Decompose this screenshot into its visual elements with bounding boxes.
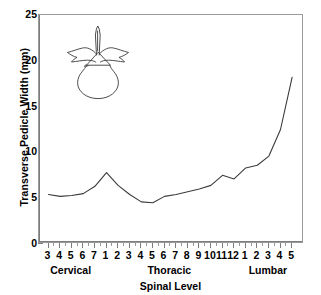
x-minor-tick bbox=[262, 243, 263, 246]
x-minor-tick bbox=[65, 243, 66, 246]
x-tick-mark-L4 bbox=[280, 243, 281, 248]
x-minor-tick bbox=[227, 243, 228, 246]
region-label-thoracic: Thoracic bbox=[114, 265, 224, 276]
x-tick-mark-T12 bbox=[233, 243, 234, 248]
plot-area bbox=[38, 14, 303, 243]
x-minor-tick bbox=[169, 243, 170, 246]
y-tick-label-20: 20 bbox=[11, 55, 37, 66]
x-minor-tick bbox=[100, 243, 101, 246]
x-tick-mark-C7 bbox=[94, 243, 95, 248]
y-tick-label-5: 5 bbox=[11, 192, 37, 203]
chart-figure: Transverse Pedicle Width (mm) 25 20 15 1… bbox=[0, 0, 321, 295]
x-tick-label-L5: 5 bbox=[281, 250, 301, 261]
x-minor-tick bbox=[181, 243, 182, 246]
x-minor-tick bbox=[274, 243, 275, 246]
x-minor-tick bbox=[77, 243, 78, 246]
x-tick-mark-T2 bbox=[117, 243, 118, 248]
x-tick-mark-T10 bbox=[210, 243, 211, 248]
x-axis-title: Spinal Level bbox=[38, 281, 303, 292]
x-minor-tick bbox=[53, 243, 54, 246]
y-tick-label-10: 10 bbox=[11, 146, 37, 157]
x-tick-mark-T3 bbox=[129, 243, 130, 248]
x-tick-mark-T1 bbox=[106, 243, 107, 248]
x-tick-mark-T7 bbox=[175, 243, 176, 248]
x-minor-tick bbox=[158, 243, 159, 246]
x-minor-tick bbox=[285, 243, 286, 246]
y-tick-label-0: 0 bbox=[11, 238, 37, 249]
x-tick-mark-C3 bbox=[48, 243, 49, 248]
y-axis-title: Transverse Pedicle Width (mm) bbox=[19, 7, 30, 247]
vertebra-illustration-icon bbox=[57, 21, 139, 103]
x-minor-tick bbox=[204, 243, 205, 246]
y-axis-line bbox=[39, 15, 40, 242]
x-tick-mark-T6 bbox=[164, 243, 165, 248]
x-minor-tick bbox=[111, 243, 112, 246]
x-tick-mark-T5 bbox=[152, 243, 153, 248]
x-tick-mark-C5 bbox=[71, 243, 72, 248]
x-minor-tick bbox=[88, 243, 89, 246]
x-tick-mark-T8 bbox=[187, 243, 188, 248]
x-tick-mark-C6 bbox=[82, 243, 83, 248]
x-minor-tick bbox=[216, 243, 217, 246]
x-tick-mark-L1 bbox=[245, 243, 246, 248]
x-axis-line bbox=[39, 241, 302, 242]
x-tick-mark-T9 bbox=[198, 243, 199, 248]
x-minor-tick bbox=[146, 243, 147, 246]
x-tick-mark-L3 bbox=[268, 243, 269, 248]
x-minor-tick bbox=[135, 243, 136, 246]
y-tick-mark-0 bbox=[38, 243, 43, 244]
x-tick-mark-T11 bbox=[222, 243, 223, 248]
x-minor-tick bbox=[193, 243, 194, 246]
y-tick-label-15: 15 bbox=[11, 101, 37, 112]
region-label-lumbar: Lumbar bbox=[213, 265, 321, 276]
y-tick-label-25: 25 bbox=[11, 9, 37, 20]
x-minor-tick bbox=[123, 243, 124, 246]
x-tick-mark-L5 bbox=[291, 243, 292, 248]
x-tick-mark-T4 bbox=[140, 243, 141, 248]
x-tick-mark-C4 bbox=[59, 243, 60, 248]
x-tick-mark-L2 bbox=[256, 243, 257, 248]
x-minor-tick bbox=[251, 243, 252, 246]
x-minor-tick bbox=[239, 243, 240, 246]
region-label-cervical: Cervical bbox=[16, 265, 126, 276]
